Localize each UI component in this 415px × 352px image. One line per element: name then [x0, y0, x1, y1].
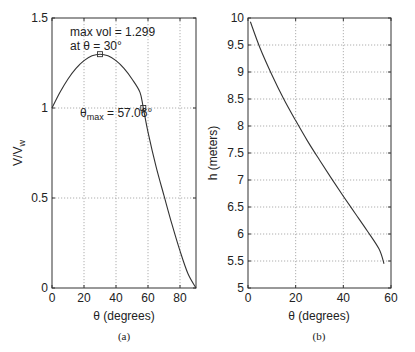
y-tick-label: 5	[237, 281, 244, 295]
y-tick-label: 0	[41, 281, 48, 295]
grid-a	[52, 18, 196, 288]
y-tick-label: 1.5	[31, 11, 48, 25]
markers-a	[98, 52, 146, 111]
y-tick-label: 7	[237, 173, 244, 187]
y-tick-label: 0.5	[31, 191, 48, 205]
volume-ratio-curve	[52, 54, 196, 288]
y-tick-label: 7.5	[227, 146, 244, 160]
x-tick-label: 40	[109, 291, 123, 305]
x-axis-label-a: θ (degrees)	[93, 309, 154, 323]
annotation-theta-max: θmax = 57.06°	[80, 106, 152, 122]
y-tick-label: 9.5	[227, 38, 244, 52]
y-tick-label: 6	[237, 227, 244, 241]
grid-b	[248, 18, 391, 288]
y-tick-label: 5.5	[227, 254, 244, 268]
x-axis-label-b: θ (degrees)	[288, 309, 349, 323]
x-tick-label: 40	[337, 291, 351, 305]
x-tick-label: 20	[289, 291, 303, 305]
y-tick-label: 6.5	[227, 200, 244, 214]
tick-labels-b: 020406055.566.577.588.599.510	[227, 11, 398, 305]
y-label-main: V/V	[11, 147, 25, 166]
y-tick-label: 8.5	[227, 92, 244, 106]
x-tick-label: 0	[245, 291, 252, 305]
chart-panel-b: 020406055.566.577.588.599.510 θ (degrees…	[206, 11, 398, 343]
axes-box-a	[52, 18, 196, 288]
y-tick-label: 10	[231, 11, 245, 25]
caption-b: (b)	[313, 330, 326, 343]
subscript-max: max	[87, 112, 105, 122]
y-label-sub: w	[17, 140, 27, 148]
x-tick-label: 80	[173, 291, 187, 305]
caption-a: (a)	[118, 330, 131, 343]
y-tick-label: 1	[41, 101, 48, 115]
x-tick-label: 60	[141, 291, 155, 305]
annotation-max-vol: max vol = 1.299	[70, 25, 155, 39]
x-tick-label: 0	[49, 291, 56, 305]
height-curve	[250, 22, 384, 264]
y-axis-label-b: h (meters)	[206, 126, 220, 181]
figure: 02040608000.511.5 max vol = 1.299 at θ =…	[0, 0, 415, 352]
theta-max-value: = 57.06°	[104, 106, 153, 120]
y-tick-label: 9	[237, 65, 244, 79]
tick-labels-a: 02040608000.511.5	[31, 11, 196, 305]
y-axis-label-a: V/Vw	[11, 140, 27, 166]
x-tick-label: 20	[77, 291, 91, 305]
x-tick-label: 60	[384, 291, 398, 305]
y-tick-label: 8	[237, 119, 244, 133]
chart-panel-a: 02040608000.511.5 max vol = 1.299 at θ =…	[11, 11, 196, 343]
annotation-at-theta: at θ = 30°	[70, 39, 122, 53]
